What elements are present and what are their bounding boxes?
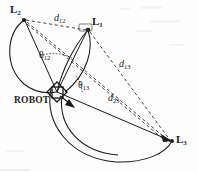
angle-label-theta13: θ13 xyxy=(78,80,89,92)
angle-label-theta12: θ12 xyxy=(39,50,50,62)
angle-label-theta13-subscript: 13 xyxy=(83,84,90,91)
landmark-label-L1: L1 xyxy=(92,16,103,29)
distance-line-d23-aux xyxy=(27,24,169,144)
landmark-marker-L2 xyxy=(22,18,26,22)
distance-label-d23-subscript: 23 xyxy=(113,97,120,104)
distance-line-d23 xyxy=(27,22,170,142)
distance-label-d13: d13 xyxy=(119,59,131,71)
robot-heading-arrow xyxy=(60,96,75,108)
figure-container: L2 L1 L3 ROBOT d12 d13 d23 θ12 θ13 xyxy=(0,0,198,172)
landmark-label-L3-subscript: 3 xyxy=(183,139,187,147)
distance-line-group xyxy=(26,20,170,144)
landmark-marker-group xyxy=(22,18,174,143)
landmark-marker-L3 xyxy=(170,139,174,143)
landmark-label-L1-subscript: 1 xyxy=(99,21,103,29)
distance-label-d13-subscript: 13 xyxy=(124,63,131,70)
landmark-label-L2-subscript: 2 xyxy=(17,9,21,17)
distance-label-d23: d23 xyxy=(108,93,120,105)
angle-label-theta12-subscript: 12 xyxy=(44,54,51,61)
distance-label-d12: d12 xyxy=(54,13,66,25)
landmark-marker-L1 xyxy=(86,28,91,33)
landmark-label-L3: L3 xyxy=(176,134,187,147)
robot-label: ROBOT xyxy=(14,96,49,106)
distance-label-d12-subscript: 12 xyxy=(59,17,66,24)
landmark-label-L2: L2 xyxy=(10,4,21,17)
